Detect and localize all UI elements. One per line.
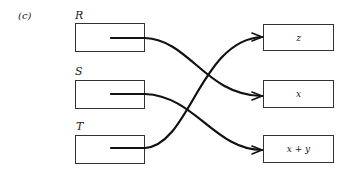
arrow-s-to-x-plus-y [111, 94, 262, 150]
arrow-r-to-x [111, 38, 262, 96]
mapping-arrows [0, 0, 353, 171]
